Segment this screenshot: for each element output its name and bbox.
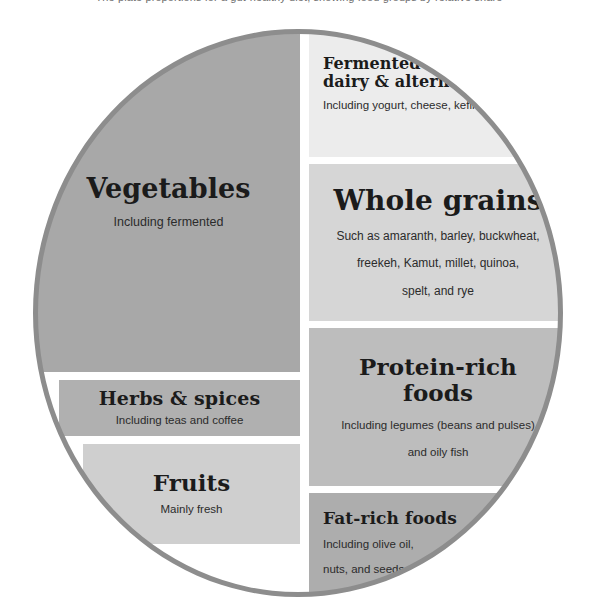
plate-clip-area: Vegetables Including fermented Herbs & s… (37, 33, 559, 593)
segment-protein-rich-foods-title-line2: foods (403, 380, 473, 406)
segment-fermented-dairy[interactable]: Fermented dairy & alternatives Including… (309, 33, 559, 157)
segment-vegetables-subtitle: Including fermented (114, 214, 224, 231)
segment-fat-rich-foods-subtitle-line2: nuts, and seeds (323, 562, 559, 577)
segment-protein-rich-foods-subtitle-line2: and oily fish (408, 445, 469, 460)
segment-fruits-subtitle: Mainly fresh (161, 502, 223, 517)
segment-fermented-dairy-subtitle: Including yogurt, cheese, kefir (323, 98, 559, 113)
segment-fat-rich-foods-subtitle-line1: Including olive oil, (323, 537, 559, 552)
top-caption: The plate proportions for a gut-healthy … (0, 0, 598, 3)
segment-fermented-dairy-title-line2: dairy & alternatives (323, 73, 559, 91)
segment-whole-grains-subtitle-line2: freekeh, Kamut, millet, quinoa, (357, 256, 519, 272)
plate-segments-container: Vegetables Including fermented Herbs & s… (37, 33, 559, 593)
segment-vegetables[interactable]: Vegetables Including fermented (37, 33, 300, 372)
segment-herbs-spices-title: Herbs & spices (99, 388, 260, 410)
segment-vegetables-title: Vegetables (86, 174, 250, 205)
segment-fruits-title: Fruits (153, 470, 231, 496)
segment-protein-rich-foods-title-line1: Protein-rich (359, 354, 517, 380)
segment-fermented-dairy-title-line1: Fermented (323, 55, 559, 73)
segment-whole-grains-subtitle-line1: Such as amaranth, barley, buckwheat, (336, 229, 539, 245)
segment-whole-grains-title: Whole grains (333, 185, 542, 217)
segment-protein-rich-foods[interactable]: Protein-rich foods Including legumes (be… (309, 328, 559, 486)
segment-whole-grains-subtitle-line3: spelt, and rye (402, 284, 474, 300)
segment-fat-rich-foods-title: Fat-rich foods (323, 509, 559, 528)
segment-herbs-spices-subtitle: Including teas and coffee (116, 413, 244, 428)
segment-herbs-spices[interactable]: Herbs & spices Including teas and coffee (59, 380, 300, 436)
plate-diagram: Vegetables Including fermented Herbs & s… (33, 29, 563, 597)
segment-fruits[interactable]: Fruits Mainly fresh (83, 444, 300, 544)
segment-fat-rich-foods[interactable]: Fat-rich foods Including olive oil, nuts… (309, 493, 559, 593)
segment-protein-rich-foods-subtitle-line1: Including legumes (beans and pulses) (341, 418, 535, 433)
segment-whole-grains[interactable]: Whole grains Such as amaranth, barley, b… (309, 164, 559, 321)
